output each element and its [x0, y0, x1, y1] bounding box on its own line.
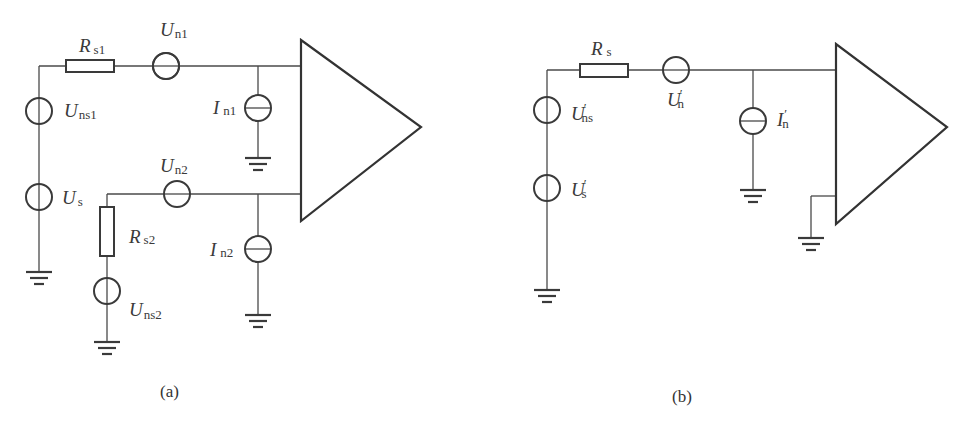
label-un-prime: U′n [667, 86, 685, 111]
voltage-noise-source-un-prime [663, 57, 689, 83]
resistor-rs1 [66, 60, 114, 72]
label-in1: In1 [212, 97, 236, 118]
label-rs2: Rs2 [128, 226, 155, 247]
caption-a: (a) [160, 382, 179, 401]
ground-icon [740, 190, 766, 202]
ground-icon [534, 290, 560, 302]
wires-b [547, 70, 836, 290]
voltage-noise-source-uns-prime [534, 97, 560, 123]
ground-icon [245, 158, 271, 170]
amplifier-triangle-b [836, 44, 947, 224]
panel-a: Rs1 Un1 Uns1 In1 Un2 Us Rs2 In2 Uns2 (a) [26, 19, 421, 401]
ground-icon [94, 342, 120, 354]
resistor-rs2 [100, 207, 114, 256]
label-in2: In2 [209, 239, 233, 260]
caption-b: (b) [672, 387, 692, 406]
voltage-noise-source-un2 [164, 181, 190, 207]
current-noise-source-in1 [245, 95, 271, 121]
label-in-prime: I′n [776, 106, 789, 131]
resistor-rs [580, 64, 628, 77]
signal-source-us-prime [534, 175, 560, 201]
panel-b: Rs U′n U′ns I′n U′s (b) [534, 38, 947, 406]
label-us-prime: U′s [571, 176, 587, 201]
voltage-noise-source-uns1 [26, 98, 52, 124]
label-un1: Un1 [160, 19, 188, 41]
current-noise-source-in2 [245, 236, 271, 262]
label-rs1: Rs1 [78, 35, 105, 57]
current-noise-source-in-prime [740, 108, 766, 134]
label-uns-prime: U′ns [571, 100, 593, 125]
ground-icon [245, 315, 271, 327]
label-un2: Un2 [160, 155, 188, 177]
voltage-noise-source-uns2 [94, 278, 120, 304]
noise-equivalent-circuit-figure: Rs1 Un1 Uns1 In1 Un2 Us Rs2 In2 Uns2 (a) [0, 0, 969, 426]
label-rs: Rs [590, 38, 612, 59]
amplifier-triangle-a [301, 40, 421, 221]
ground-icon [798, 238, 824, 250]
label-us: Us [62, 187, 83, 209]
signal-source-us [26, 184, 52, 210]
label-uns2: Uns2 [129, 299, 162, 322]
label-uns1: Uns1 [64, 100, 97, 122]
ground-icon [26, 272, 52, 284]
